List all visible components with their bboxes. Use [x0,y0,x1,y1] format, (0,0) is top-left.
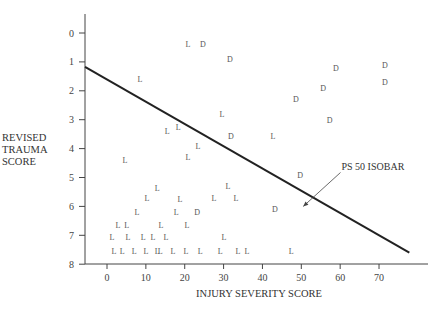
lived-marker: L [124,221,129,230]
x-axis-title: INJURY SEVERITY SCORE [0,288,428,299]
died-marker: D [293,95,299,104]
lived-marker: L [195,142,200,151]
ps50-isobar: PS 50 ISOBAR [85,67,409,253]
lived-marker: L [236,247,241,256]
lived-marker: L [185,40,190,49]
lived-marker: L [115,221,120,230]
x-tick-label: 10 [141,272,151,283]
y-tick-label: 6 [69,201,74,212]
died-marker: D [228,132,234,141]
y-tick-label: 3 [69,114,74,125]
died-marker: D [200,40,206,49]
scatter-plot: 012345678010203040506070 LLLLLLLLLLLLLLL… [0,0,428,315]
lived-marker: L [164,233,169,242]
lived-marker: L [159,221,164,230]
y-axis-title-line-1: REVISED [2,132,48,144]
lived-marker: L [141,233,146,242]
lived-marker: L [158,247,163,256]
lived-marker: L [211,194,216,203]
x-tick-label: 0 [105,272,110,283]
died-marker: D [327,116,333,125]
died-marker: D [194,208,200,217]
died-marker: D [382,78,388,87]
lived-marker: L [289,247,294,256]
x-tick-label: 40 [257,272,267,283]
lived-marker: L [110,233,115,242]
data-points: LLLLLLLLLLLLLLLLLLLLLLLLLLLLLLLLLLLLLLLL… [110,40,388,256]
lived-marker: L [134,208,139,217]
y-tick-label: 1 [69,56,74,67]
y-axis-title: REVISED TRAUMA SCORE [2,132,48,168]
x-tick-label: 20 [180,272,190,283]
x-tick-label: 60 [335,272,345,283]
lived-marker: L [176,123,181,132]
lived-marker: L [165,127,170,136]
lived-marker: L [171,247,176,256]
x-tick-label: 70 [374,272,384,283]
lived-marker: L [183,247,188,256]
lived-marker: L [145,194,150,203]
lived-marker: L [155,184,160,193]
lived-marker: L [143,247,148,256]
lived-marker: L [270,132,275,141]
y-axis-title-line-2: TRAUMA [2,144,48,156]
x-tick-label: 30 [219,272,229,283]
lived-marker: L [112,247,117,256]
died-marker: D [297,171,303,180]
y-tick-label: 4 [69,143,74,154]
lived-marker: L [174,208,179,217]
died-marker: D [272,205,278,214]
y-tick-label: 0 [69,28,74,39]
lived-marker: L [150,233,155,242]
lived-marker: L [198,247,203,256]
died-marker: D [333,64,339,73]
axes: 012345678010203040506070 [69,14,428,283]
y-axis-title-line-3: SCORE [2,156,48,168]
lived-marker: L [244,247,249,256]
died-marker: D [227,55,233,64]
lived-marker: L [126,233,131,242]
lived-marker: L [234,194,239,203]
y-tick-label: 2 [69,85,74,96]
lived-marker: L [185,221,190,230]
lived-marker: L [120,247,125,256]
lived-marker: L [122,156,127,165]
lived-marker: L [132,247,137,256]
isobar-arrow [303,173,340,207]
lived-marker: L [222,233,227,242]
lived-marker: L [178,195,183,204]
y-tick-label: 7 [69,230,74,241]
died-marker: D [320,84,326,93]
isobar-label: PS 50 ISOBAR [342,161,405,172]
lived-marker: L [218,247,223,256]
lived-marker: L [220,110,225,119]
lived-marker: L [185,153,190,162]
lived-marker: L [138,75,143,84]
lived-marker: L [225,182,230,191]
x-tick-label: 50 [296,272,306,283]
died-marker: D [382,61,388,70]
y-tick-label: 8 [69,259,74,270]
y-tick-label: 5 [69,172,74,183]
